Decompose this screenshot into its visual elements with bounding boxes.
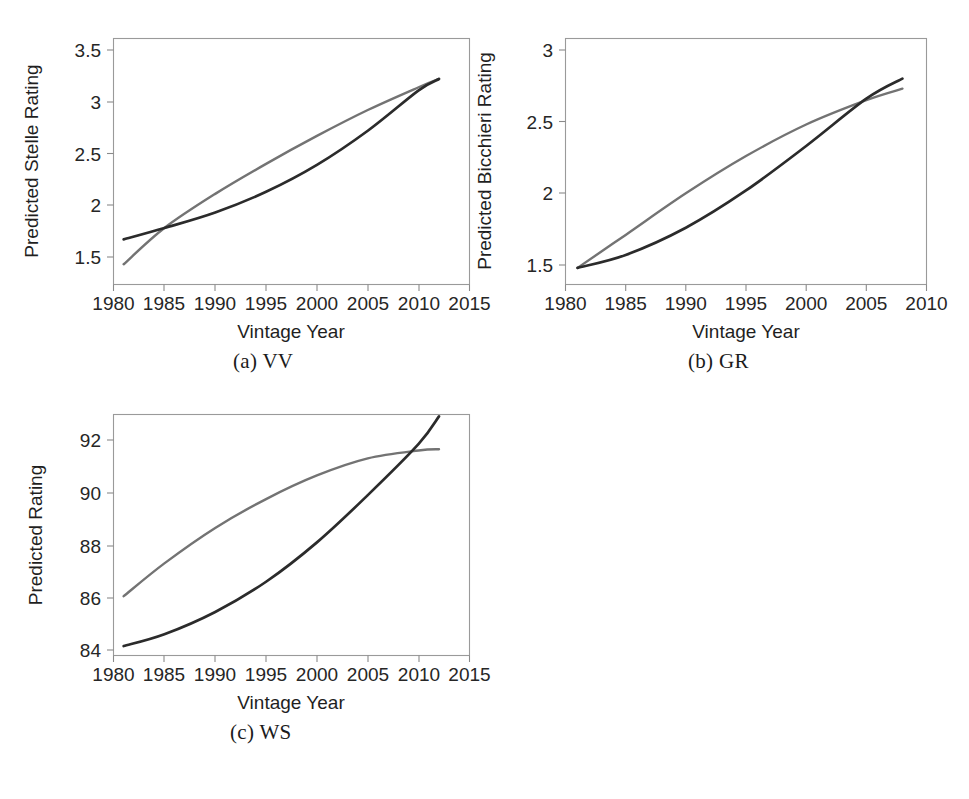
series-gray-vv — [124, 79, 439, 264]
panel-gr: 3 2.5 2 1.5 Predicted Bicchieri Rating 1… — [455, 0, 969, 345]
y-tick-label-gr-1.5: 1.5 — [527, 255, 553, 276]
y-tick-label-vv-2.5: 2.5 — [75, 144, 101, 165]
y-axis-title-ws: Predicted Rating — [25, 465, 46, 605]
x-tick-label-gr-1995: 1995 — [725, 293, 767, 314]
y-tick-label-ws-86: 86 — [80, 588, 101, 609]
caption-gr: (b) GR — [688, 349, 749, 374]
x-ticks-ws — [114, 656, 470, 663]
y-tick-label-vv-2: 2 — [90, 195, 101, 216]
y-tick-label-ws-84: 84 — [80, 640, 102, 661]
x-tick-label-vv-2010: 2010 — [398, 293, 440, 314]
y-axis-title-gr: Predicted Bicchieri Rating — [474, 52, 495, 270]
y-axis-title-vv: Predicted Stelle Rating — [21, 64, 42, 257]
y-tick-label-gr-3: 3 — [542, 40, 553, 61]
y-tick-label-vv-1.5: 1.5 — [75, 247, 101, 268]
x-axis-title-gr: Vintage Year — [692, 321, 800, 342]
plot-frame-vv — [114, 39, 470, 285]
x-axis-title-vv: Vintage Year — [237, 321, 345, 342]
x-tick-label-ws-1980: 1980 — [92, 664, 134, 685]
series-dark-vv — [124, 79, 439, 239]
x-tick-label-ws-2005: 2005 — [347, 664, 389, 685]
series-gray-gr — [578, 89, 903, 268]
x-tick-label-vv-1995: 1995 — [245, 293, 287, 314]
x-axis-title-ws: Vintage Year — [237, 692, 345, 713]
caption-vv: (a) VV — [233, 349, 293, 374]
series-dark-ws — [124, 416, 439, 646]
x-tick-label-vv-2005: 2005 — [347, 293, 389, 314]
x-tick-label-gr-2010: 2010 — [905, 293, 947, 314]
y-ticks-ws — [107, 440, 114, 650]
x-tick-label-ws-1985: 1985 — [143, 664, 185, 685]
x-tick-label-gr-2005: 2005 — [845, 293, 887, 314]
x-tick-label-vv-1980: 1980 — [92, 293, 134, 314]
x-tick-label-vv-1985: 1985 — [143, 293, 185, 314]
x-ticks-gr — [566, 285, 927, 292]
series-dark-gr — [578, 79, 903, 268]
x-ticks-vv — [114, 285, 470, 292]
x-tick-label-ws-1995: 1995 — [245, 664, 287, 685]
y-ticks-vv — [107, 50, 114, 257]
x-tick-label-ws-1990: 1990 — [194, 664, 236, 685]
y-tick-label-ws-88: 88 — [80, 536, 101, 557]
panel-vv: 3.5 3 2.5 2 1.5 Predicted Stelle Rating … — [0, 0, 500, 345]
x-tick-label-gr-1985: 1985 — [605, 293, 647, 314]
x-tick-label-ws-2000: 2000 — [296, 664, 338, 685]
y-tick-label-vv-3.5: 3.5 — [75, 40, 101, 61]
x-tick-label-gr-1980: 1980 — [544, 293, 586, 314]
figure-root: 3.5 3 2.5 2 1.5 Predicted Stelle Rating … — [0, 0, 969, 799]
y-tick-label-vv-3: 3 — [90, 92, 101, 113]
panel-ws: 92 90 88 86 84 Predicted Rating 1980 198… — [0, 376, 500, 721]
y-ticks-gr — [559, 50, 566, 265]
x-tick-label-vv-2000: 2000 — [296, 293, 338, 314]
panel-ws-svg: 92 90 88 86 84 Predicted Rating 1980 198… — [0, 376, 500, 721]
x-tick-label-gr-1990: 1990 — [665, 293, 707, 314]
y-tick-label-gr-2.5: 2.5 — [527, 112, 553, 133]
y-tick-label-ws-90: 90 — [80, 483, 101, 504]
plot-frame-gr — [566, 39, 927, 285]
y-tick-label-gr-2: 2 — [542, 183, 553, 204]
x-tick-label-ws-2015: 2015 — [448, 664, 490, 685]
panel-gr-svg: 3 2.5 2 1.5 Predicted Bicchieri Rating 1… — [455, 0, 969, 345]
x-tick-label-ws-2010: 2010 — [398, 664, 440, 685]
x-tick-label-gr-2000: 2000 — [785, 293, 827, 314]
y-tick-label-ws-92: 92 — [80, 430, 101, 451]
caption-ws: (c) WS — [230, 720, 291, 745]
panel-vv-svg: 3.5 3 2.5 2 1.5 Predicted Stelle Rating … — [0, 0, 500, 345]
x-tick-label-vv-1990: 1990 — [194, 293, 236, 314]
